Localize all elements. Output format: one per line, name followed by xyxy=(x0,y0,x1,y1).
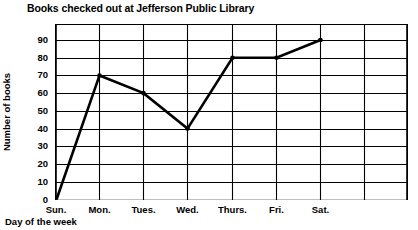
x-tick-label: Thurs. xyxy=(218,205,247,215)
y-tick-label: 20 xyxy=(37,159,48,169)
x-tick-label: Sun. xyxy=(46,205,67,215)
data-point-marker xyxy=(141,91,146,96)
y-axis-tick-labels: 0102030405060708090 xyxy=(0,24,48,200)
data-point-marker xyxy=(274,55,279,60)
plot-area xyxy=(55,24,408,200)
data-point-marker xyxy=(185,126,190,131)
y-tick-label: 50 xyxy=(37,106,48,116)
x-tick-label: Fri. xyxy=(269,205,284,215)
plot-grid-and-series xyxy=(55,24,408,200)
chart-title: Books checked out at Jefferson Public Li… xyxy=(27,2,254,14)
data-series-line xyxy=(57,40,321,200)
x-tick-label: Mon. xyxy=(88,205,110,215)
y-tick-label: 70 xyxy=(37,71,48,81)
y-tick-label: 0 xyxy=(43,195,48,205)
y-tick-label: 40 xyxy=(37,124,48,134)
y-tick-label: 90 xyxy=(37,35,48,45)
x-tick-label: Sat. xyxy=(312,205,329,215)
line-chart-figure: Books checked out at Jefferson Public Li… xyxy=(0,0,418,230)
y-tick-label: 80 xyxy=(37,53,48,63)
data-point-marker xyxy=(230,55,235,60)
y-tick-label: 60 xyxy=(37,88,48,98)
x-axis-title: Day of the week xyxy=(5,216,77,227)
data-point-marker xyxy=(97,73,102,78)
grid-lines xyxy=(55,24,408,200)
data-point-marker xyxy=(318,38,323,43)
y-tick-label: 10 xyxy=(37,177,48,187)
x-axis-tick-labels: Sun.Mon.Tues.Wed.Thurs.Fri.Sat. xyxy=(55,205,408,219)
x-tick-label: Tues. xyxy=(131,205,155,215)
y-tick-label: 30 xyxy=(37,142,48,152)
x-tick-label: Wed. xyxy=(176,205,199,215)
